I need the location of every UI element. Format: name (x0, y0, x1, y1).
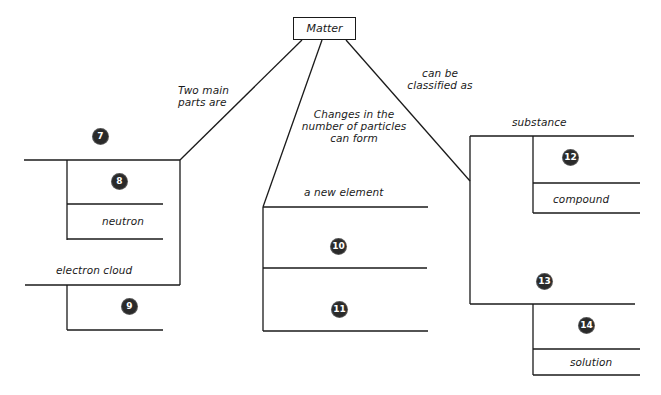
root-node-matter: Matter (293, 17, 356, 40)
node-a-new-element: a new element (304, 186, 383, 198)
node-compound: compound (553, 193, 609, 205)
answer-blank-8[interactable]: 8 (112, 174, 127, 189)
link-label-right: can be classified as (405, 67, 475, 91)
link-label-middle-line-2: number of particles (294, 120, 414, 132)
answer-blank-11[interactable]: 11 (332, 302, 347, 317)
answer-blank-10[interactable]: 10 (331, 239, 346, 254)
link-label-middle: Changes in the number of particles can f… (294, 108, 414, 144)
link-label-left-line-1: Two main (178, 84, 229, 96)
link-label-left: Two main parts are (178, 84, 229, 108)
link-label-middle-line-3: can form (294, 132, 414, 144)
answer-blank-7[interactable]: 7 (93, 129, 108, 144)
answer-blank-9[interactable]: 9 (122, 299, 137, 314)
link-label-left-line-2: parts are (178, 96, 229, 108)
node-substance: substance (512, 116, 567, 128)
answer-blank-13[interactable]: 13 (537, 274, 552, 289)
answer-blank-12[interactable]: 12 (563, 150, 578, 165)
link-label-right-line-2: classified as (405, 79, 475, 91)
node-neutron: neutron (102, 215, 144, 227)
node-electron-cloud: electron cloud (56, 264, 132, 276)
node-solution: solution (570, 356, 612, 368)
link-label-right-line-1: can be (405, 67, 475, 79)
answer-blank-14[interactable]: 14 (579, 318, 594, 333)
link-label-middle-line-1: Changes in the (294, 108, 414, 120)
